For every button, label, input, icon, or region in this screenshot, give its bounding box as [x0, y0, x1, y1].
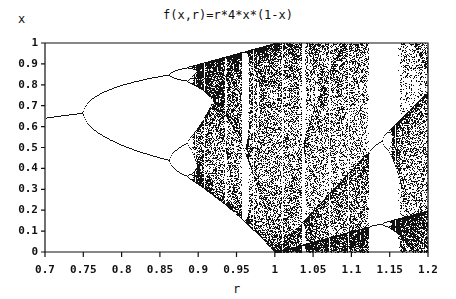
x-tick-label: 1.2: [408, 263, 448, 276]
y-tick-label: 0.4: [0, 161, 38, 174]
y-tick-label: 0.2: [0, 203, 38, 216]
x-tick-label: 0.95: [217, 263, 257, 276]
x-tick-label: 1.15: [370, 263, 410, 276]
y-tick-label: 0.1: [0, 224, 38, 237]
y-tick-label: 0.6: [0, 120, 38, 133]
x-tick-label: 1.1: [331, 263, 371, 276]
x-tick-label: 1: [255, 263, 295, 276]
bifurcation-plot: [0, 0, 456, 299]
x-tick-label: 0.85: [140, 263, 180, 276]
x-tick-label: 0.75: [63, 263, 103, 276]
x-tick-label: 0.9: [178, 263, 218, 276]
y-tick-label: 0: [0, 245, 38, 258]
x-tick-label: 0.7: [25, 263, 65, 276]
y-tick-label: 1: [0, 36, 38, 49]
y-tick-label: 0.8: [0, 78, 38, 91]
y-tick-label: 0.3: [0, 182, 38, 195]
x-tick-label: 1.05: [293, 263, 333, 276]
x-tick-label: 0.8: [102, 263, 142, 276]
y-tick-label: 0.9: [0, 57, 38, 70]
y-tick-label: 0.5: [0, 141, 38, 154]
y-tick-label: 0.7: [0, 99, 38, 112]
